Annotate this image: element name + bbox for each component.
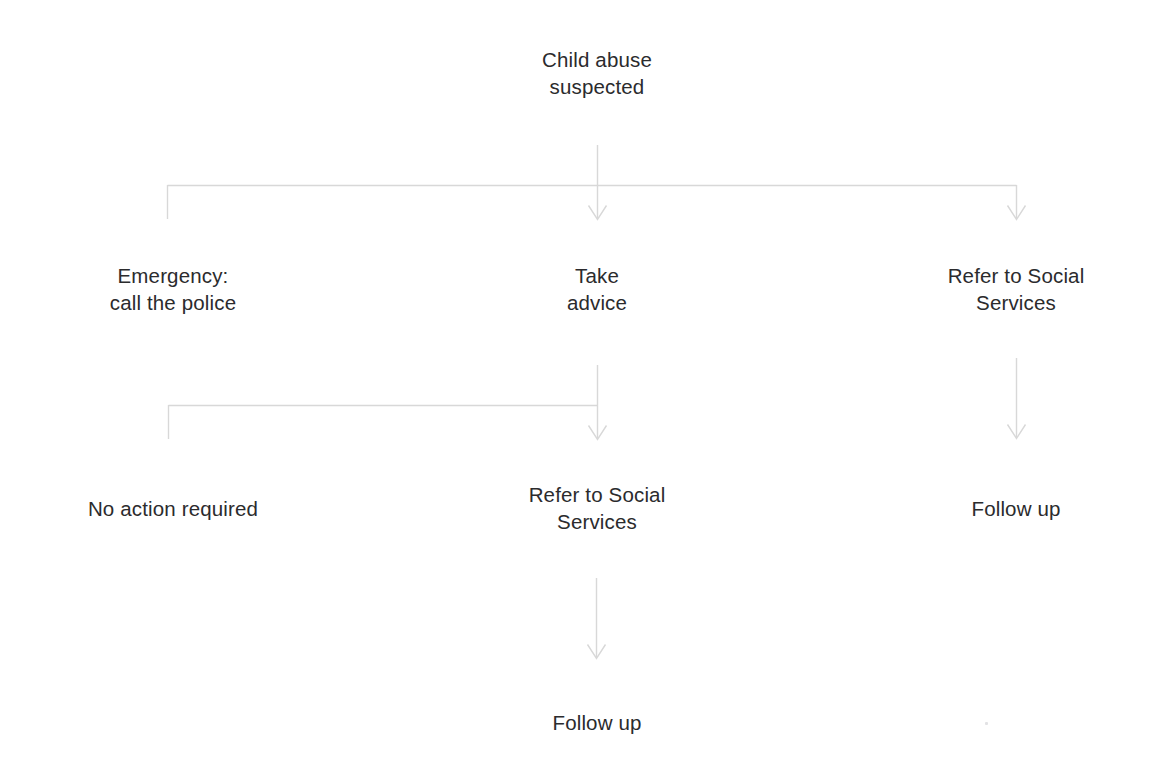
arrowhead-branch-1-center-icon bbox=[589, 206, 607, 220]
arrowhead-branch-2-center-icon bbox=[589, 426, 607, 440]
node-child-abuse-suspected: Child abuse suspected bbox=[542, 46, 652, 101]
arrowhead-branch-1-right-icon bbox=[1008, 206, 1026, 220]
node-take-advice: Take advice bbox=[567, 262, 627, 317]
node-emergency-call-the-police: Emergency: call the police bbox=[110, 262, 236, 317]
node-refer-to-social-services-mid: Refer to Social Services bbox=[529, 481, 666, 536]
arrowhead-center-bottom-icon bbox=[588, 645, 606, 659]
scan-artifact-speck bbox=[985, 722, 988, 725]
connector-layer bbox=[0, 0, 1158, 769]
node-refer-to-social-services-top: Refer to Social Services bbox=[948, 262, 1085, 317]
node-follow-up-bottom: Follow up bbox=[552, 709, 641, 736]
flowchart-canvas: Child abuse suspected Emergency: call th… bbox=[0, 0, 1158, 769]
node-follow-up-right: Follow up bbox=[971, 495, 1060, 522]
node-no-action-required: No action required bbox=[88, 495, 258, 522]
arrowhead-right-column-icon bbox=[1008, 425, 1026, 439]
